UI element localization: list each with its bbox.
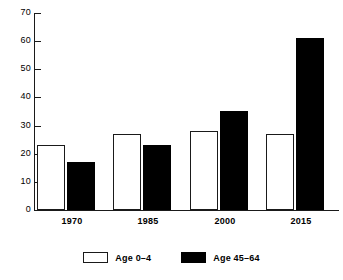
x-axis-label-2015: 2015 — [263, 216, 339, 226]
x-axis-label-1985: 1985 — [110, 216, 186, 226]
y-axis-tick-label: 50 — [3, 64, 31, 73]
y-axis-tick-label: 10 — [3, 177, 31, 186]
bar-1970-series-2 — [67, 162, 95, 210]
x-axis-line — [34, 210, 339, 211]
y-axis-tick-label: 0 — [3, 205, 31, 214]
legend-item-age-0-4: Age 0–4 — [83, 252, 151, 263]
y-axis-tick-label: 20 — [3, 149, 31, 158]
bar-1985-series-1 — [113, 134, 141, 210]
legend-label: Age 45–64 — [213, 253, 259, 263]
legend-label: Age 0–4 — [115, 253, 151, 263]
bar-2000-series-1 — [190, 131, 218, 210]
bar-2000-series-2 — [220, 111, 248, 210]
bars-layer — [34, 13, 339, 210]
white-outline-swatch — [83, 252, 108, 263]
bar-1970-series-1 — [37, 145, 65, 210]
bar-2015-series-2 — [296, 38, 324, 210]
y-axis-tick-label: 30 — [3, 121, 31, 130]
chart-legend: Age 0–4 Age 45–64 — [0, 252, 343, 263]
y-axis-tick-label: 70 — [3, 8, 31, 17]
bar-chart: 010203040506070 1970198520002015 Age 0–4… — [0, 0, 343, 280]
x-axis-label-2000: 2000 — [187, 216, 263, 226]
y-axis-tick-label: 40 — [3, 92, 31, 101]
x-axis-label-1970: 1970 — [34, 216, 110, 226]
bar-2015-series-1 — [266, 134, 294, 210]
legend-item-age-45-64: Age 45–64 — [181, 252, 259, 263]
black-filled-swatch — [181, 252, 206, 263]
y-axis-tick-label: 60 — [3, 36, 31, 45]
y-axis-tick — [35, 210, 41, 211]
bar-1985-series-2 — [143, 145, 171, 210]
